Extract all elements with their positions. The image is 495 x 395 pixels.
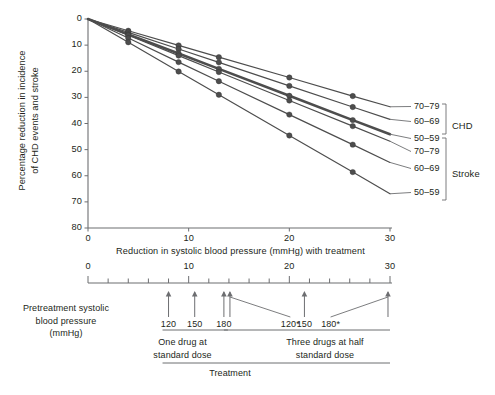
data-point xyxy=(176,59,181,64)
arrow-label-150: 150 xyxy=(179,319,211,329)
data-point xyxy=(216,60,221,65)
legend-leader xyxy=(390,162,411,168)
legend-item-chd-60-69: 60–69 xyxy=(414,116,440,126)
legend-item-chd-70-79: 70–79 xyxy=(414,101,440,111)
arrow-head xyxy=(221,291,227,297)
legend-leader xyxy=(390,141,411,151)
arrow-head xyxy=(385,291,391,297)
data-point xyxy=(216,78,221,83)
arrow-head xyxy=(302,291,308,297)
legend-group-chd: CHD xyxy=(452,120,473,131)
data-point xyxy=(287,98,292,103)
series-line-0 xyxy=(88,19,390,107)
data-point xyxy=(126,40,131,45)
series-line-1 xyxy=(88,19,390,119)
data-point xyxy=(287,133,292,138)
bracket-label-0: One drug at standard dose xyxy=(125,336,240,361)
legend-bracket-chd xyxy=(442,104,446,134)
ruler-tick-label: 10 xyxy=(174,261,204,271)
leader-120-star xyxy=(230,297,290,317)
ruler-tick-label: 0 xyxy=(73,261,103,271)
data-point xyxy=(216,92,221,97)
figure-chart: Percentage reduction in incidence of CHD… xyxy=(0,0,495,395)
treatment-label: Treatment xyxy=(150,368,310,378)
legend-group-stroke: Stroke xyxy=(452,168,480,179)
legend-item-stroke-50-59: 50–59 xyxy=(414,187,440,197)
data-point xyxy=(176,69,181,74)
data-point xyxy=(287,112,292,117)
data-point xyxy=(216,69,221,74)
legend-leader xyxy=(390,193,411,194)
series-line-2 xyxy=(88,19,390,134)
data-point xyxy=(350,117,355,122)
leader-180-star xyxy=(331,297,388,317)
data-point xyxy=(287,83,292,88)
series-line-4 xyxy=(88,19,390,162)
legend-bracket-stroke xyxy=(442,138,446,200)
series-line-3 xyxy=(88,19,390,141)
legend-item-stroke-70-79: 70–79 xyxy=(414,146,440,156)
data-point xyxy=(176,53,181,58)
legend-item-stroke-60-69: 60–69 xyxy=(414,163,440,173)
bracket-label-1: Three drugs at half standard dose xyxy=(250,336,400,361)
arrow-head xyxy=(166,291,172,297)
data-point xyxy=(216,54,221,59)
data-point xyxy=(350,123,355,128)
arrow-label-180-star: 180* xyxy=(315,319,347,329)
data-point xyxy=(350,142,355,147)
arrow-label-180: 180 xyxy=(208,319,240,329)
legend-leader xyxy=(390,134,411,138)
data-point xyxy=(350,93,355,98)
ruler-tick-label: 20 xyxy=(274,261,304,271)
pretreatment-bp-label: Pretreatment systolic blood pressure (mm… xyxy=(6,302,126,340)
ruler-tick-label: 30 xyxy=(375,261,405,271)
legend-leader xyxy=(390,119,411,121)
data-point xyxy=(287,75,292,80)
data-point xyxy=(350,169,355,174)
arrow-head xyxy=(192,291,198,297)
data-point xyxy=(350,104,355,109)
legend-item-chd-50-59: 50–59 xyxy=(414,133,440,143)
arrow-head xyxy=(227,291,233,297)
series-line-5 xyxy=(88,19,390,194)
